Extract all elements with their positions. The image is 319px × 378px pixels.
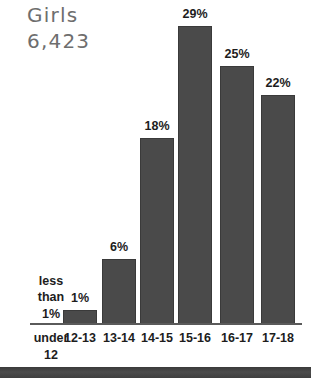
bar-column-12-13: 1% (63, 0, 97, 324)
bar-column-14-15: 18% (140, 0, 174, 324)
bar-value-under-12: less than 1% (38, 273, 64, 323)
bar-chart: Girls 6,423 less than 1% 1% 6% 18% (0, 0, 319, 378)
bar-value-13-14: 6% (110, 240, 128, 254)
bar-value-16-17: 25% (224, 47, 249, 61)
bar-value-12-13: 1% (71, 291, 89, 305)
x-axis-line (30, 323, 302, 325)
than-label: than (38, 289, 64, 306)
plot-area: less than 1% 1% 6% 18% 29% 25% (30, 0, 302, 324)
bar-13-14 (102, 259, 136, 324)
bar-value-14-15: 18% (144, 119, 169, 133)
bar-column-13-14: 6% (102, 0, 136, 324)
bar-value-15-16: 29% (182, 7, 207, 21)
x-label-under-12-line2: 12 (22, 347, 80, 364)
bar-14-15 (140, 138, 174, 324)
less-label: less (38, 273, 64, 290)
bar-15-16 (178, 26, 212, 324)
bar-column-16-17: 25% (220, 0, 254, 324)
bar-17-18 (261, 95, 295, 324)
bar-column-17-18: 22% (261, 0, 295, 324)
x-label-17-18: 17-18 (249, 330, 307, 347)
bar-16-17 (220, 66, 254, 324)
page-edge-bar (0, 367, 311, 378)
x-axis-labels: under 12 12-13 13-14 14-15 15-16 16-17 1… (30, 330, 302, 370)
bar-12-13 (63, 310, 97, 324)
bar-column-15-16: 29% (178, 0, 212, 324)
one-percent-label: 1% (38, 306, 64, 323)
bar-value-17-18: 22% (265, 76, 290, 90)
